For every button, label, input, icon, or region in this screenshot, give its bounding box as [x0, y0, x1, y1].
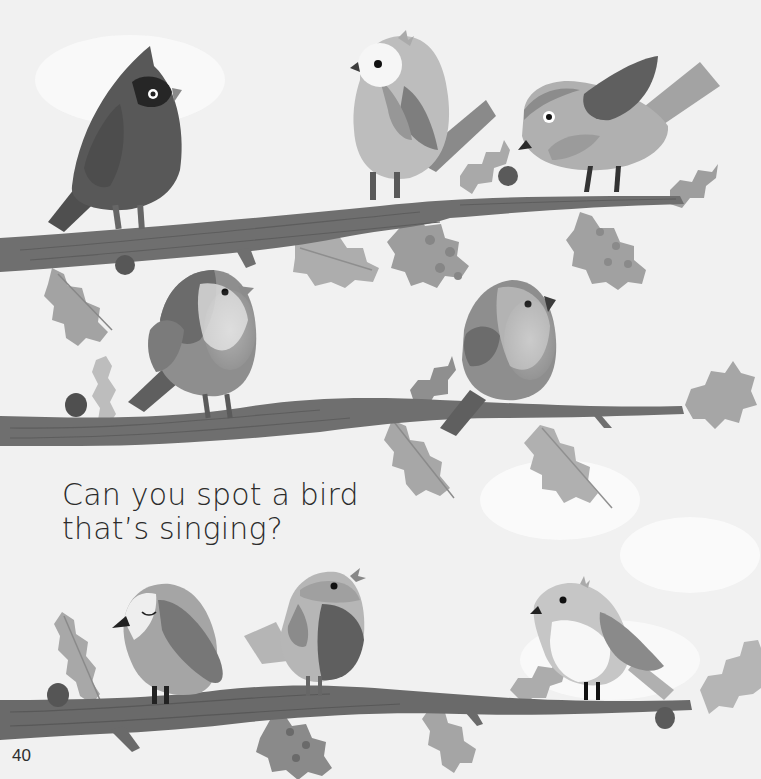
holly-leaf-icon	[566, 212, 646, 290]
holly-leaf-icon	[460, 140, 510, 194]
berry-icon	[498, 166, 518, 186]
holly-leaf-icon	[92, 356, 116, 426]
caption-question: Can you spot a bird that’s singing?	[62, 478, 359, 546]
holly-leaf-icon	[700, 640, 761, 714]
berry-icon	[115, 255, 135, 275]
sleeping-bird	[112, 584, 223, 704]
page-number: 40	[12, 746, 31, 766]
berry-icon	[655, 707, 675, 729]
holly-leaf-icon	[410, 356, 456, 406]
holly-leaf-icon	[256, 714, 332, 779]
holly-leaf-icon	[685, 361, 757, 429]
book-page: Can you spot a bird that’s singing? 40	[0, 0, 761, 779]
holly-leaf-icon	[44, 268, 108, 346]
leaning-bird	[518, 56, 720, 192]
berry-icon	[65, 393, 87, 417]
holly-leaf-icon	[384, 420, 450, 496]
berry-icon	[47, 683, 69, 707]
illustration	[0, 0, 761, 779]
caption-line-2: that’s singing?	[62, 512, 359, 546]
caption-line-1: Can you spot a bird	[62, 478, 359, 512]
singing-bird	[244, 568, 366, 696]
